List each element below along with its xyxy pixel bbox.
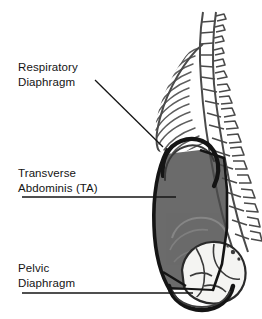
anatomy-figure: Respiratory Diaphragm Transverse Abdomin… — [0, 0, 262, 319]
respiratory-diaphragm-label: Respiratory Diaphragm — [18, 60, 78, 89]
transverse-abdominis-label-line2: Abdominis (TA) — [18, 181, 98, 196]
transverse-abdominis-label: Transverse Abdominis (TA) — [18, 166, 98, 195]
respiratory-diaphragm-label-line1: Respiratory — [18, 60, 78, 75]
respiratory-leader-line — [95, 80, 163, 147]
pelvis — [182, 242, 246, 304]
transverse-abdominis-label-line1: Transverse — [18, 166, 98, 181]
pelvic-diaphragm-label-line1: Pelvic — [18, 261, 75, 276]
respiratory-diaphragm-label-line2: Diaphragm — [18, 75, 78, 90]
pelvic-diaphragm-label-line2: Diaphragm — [18, 276, 75, 291]
pelvic-diaphragm-label: Pelvic Diaphragm — [18, 261, 75, 290]
